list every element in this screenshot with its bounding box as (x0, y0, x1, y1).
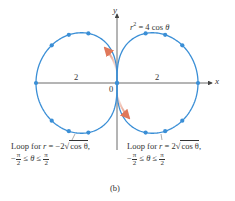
left-loop-caption: Loop for r = −2√cos θ, −π2 ≤ θ ≤ π2 (11, 141, 90, 167)
left-caption-prefix: Loop for (11, 141, 43, 151)
origin-label: 0 (109, 84, 113, 94)
sample-point (163, 129, 167, 133)
x-axis-label: x (215, 76, 219, 86)
sample-point (115, 81, 119, 85)
sample-point (67, 33, 71, 37)
sample-point (50, 43, 54, 47)
left-caption-ineq: ≤ θ ≤ (21, 153, 43, 163)
right-caption-line1: Loop for r = 2√cos θ, (127, 141, 201, 151)
right-caption-comma: , (199, 141, 201, 151)
sample-point (163, 33, 167, 37)
left-caption-comma: , (88, 141, 90, 151)
left-caption-eq: = −2 (46, 141, 64, 151)
equation-theta: θ (165, 22, 169, 32)
sample-point (180, 43, 184, 47)
sample-point (86, 131, 90, 135)
right-caption-frac-2: π2 (159, 152, 165, 167)
right-caption-prefix: Loop for (127, 141, 159, 151)
y-axis-label: y (113, 5, 117, 15)
right-caption-leader (161, 134, 162, 140)
left-caption-line1: Loop for r = −2√cos θ, (11, 141, 90, 151)
right-loop-caption: Loop for r = 2√cos θ, −π2 ≤ θ ≤ π2 (127, 141, 201, 167)
sample-point (86, 31, 90, 35)
right-caption-eq: = 2 (162, 141, 175, 151)
sample-point (50, 119, 54, 123)
right-caption-radicand: cos θ (180, 140, 199, 151)
sample-point (196, 81, 200, 85)
left-caption-radicand: cos θ (69, 140, 88, 151)
sample-point (144, 31, 148, 35)
tick-label-right-2: 2 (155, 72, 159, 82)
equation-label: r2 = 4 cos θ (130, 21, 169, 32)
polar-graph (0, 0, 235, 201)
sample-point (180, 119, 184, 123)
left-caption-frac-2: π2 (43, 152, 49, 167)
sample-point (34, 81, 38, 85)
left-caption-line2: −π2 ≤ θ ≤ π2 (11, 152, 90, 167)
equation-rhs: = 4 cos (136, 22, 165, 32)
right-caption-line2: −π2 ≤ θ ≤ π2 (127, 152, 201, 167)
sample-point (67, 129, 71, 133)
tick-label-left-2: 2 (74, 72, 78, 82)
sample-point (144, 131, 148, 135)
right-caption-ineq: ≤ θ ≤ (137, 153, 159, 163)
figure-label: (b) (110, 183, 120, 193)
